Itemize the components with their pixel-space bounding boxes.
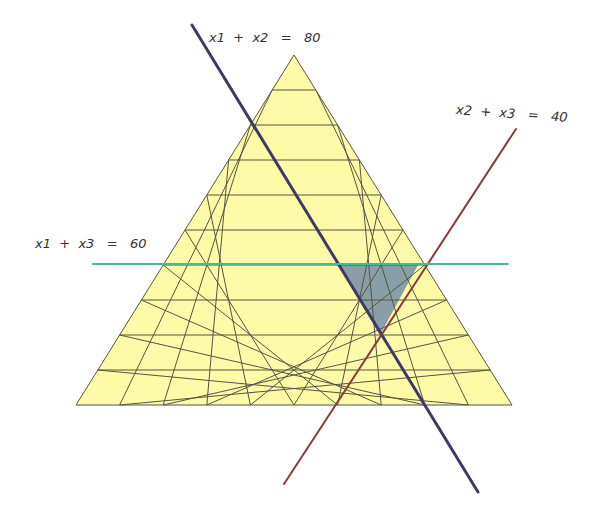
label-x1-plus-x2: x1 + x2 = 80 — [209, 30, 321, 45]
simplex-diagram — [0, 0, 601, 519]
label-x1-plus-x3: x1 + x3 = 60 — [35, 236, 147, 251]
